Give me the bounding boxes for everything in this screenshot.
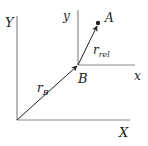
r-b-sub: B bbox=[42, 88, 49, 97]
r-rel-sub: rel bbox=[99, 50, 111, 59]
r-b-label: rB bbox=[37, 81, 49, 97]
r-rel-label: rrel bbox=[93, 43, 110, 59]
point-a-dot bbox=[96, 21, 100, 25]
small-y-label: y bbox=[62, 9, 70, 23]
big-y-label: Y bbox=[5, 15, 15, 30]
relative-motion-diagram: Y X y x A B rB rrel bbox=[0, 0, 148, 146]
big-x-label: X bbox=[118, 125, 129, 140]
small-x-label: x bbox=[134, 69, 141, 83]
point-a-label: A bbox=[104, 11, 114, 25]
point-b-label: B bbox=[77, 71, 88, 86]
